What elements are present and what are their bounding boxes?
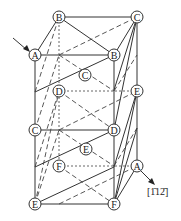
svg-text:C: C bbox=[134, 12, 141, 23]
incoming-arrow bbox=[13, 38, 30, 52]
svg-text:B: B bbox=[111, 50, 118, 61]
atom-node: C bbox=[29, 124, 41, 136]
svg-text:C: C bbox=[82, 70, 89, 81]
atom-node: A bbox=[29, 49, 41, 61]
svg-text:A: A bbox=[31, 50, 39, 61]
atom-node: F bbox=[53, 160, 65, 172]
svg-text:C: C bbox=[32, 125, 39, 136]
svg-text:D: D bbox=[55, 86, 62, 97]
svg-text:E: E bbox=[32, 199, 38, 210]
svg-text:A: A bbox=[133, 161, 141, 172]
atom-node: E bbox=[29, 198, 41, 210]
atom-node: F bbox=[108, 198, 120, 210]
svg-text:B: B bbox=[56, 12, 63, 23]
atom-node: A bbox=[131, 160, 143, 172]
atom-node: C bbox=[131, 11, 143, 23]
svg-text:F: F bbox=[56, 161, 62, 172]
atom-node: E bbox=[131, 85, 143, 97]
stacking-sequence-diagram: [1̄12̄] B C A B C D E C D E F A E F bbox=[0, 0, 181, 221]
direction-arrow bbox=[141, 171, 155, 185]
svg-text:F: F bbox=[111, 199, 117, 210]
svg-text:E: E bbox=[83, 144, 89, 155]
svg-text:E: E bbox=[134, 86, 140, 97]
atom-node: E bbox=[80, 143, 92, 155]
svg-text:D: D bbox=[110, 125, 117, 136]
atom-node: C bbox=[79, 69, 91, 81]
atom-node: D bbox=[108, 124, 120, 136]
atom-node: D bbox=[53, 85, 65, 97]
hidden-edges bbox=[59, 17, 137, 166]
direction-label: [1̄12̄] bbox=[147, 186, 168, 197]
atom-node: B bbox=[53, 11, 65, 23]
atom-node: B bbox=[108, 49, 120, 61]
dashed-lines bbox=[35, 17, 137, 204]
